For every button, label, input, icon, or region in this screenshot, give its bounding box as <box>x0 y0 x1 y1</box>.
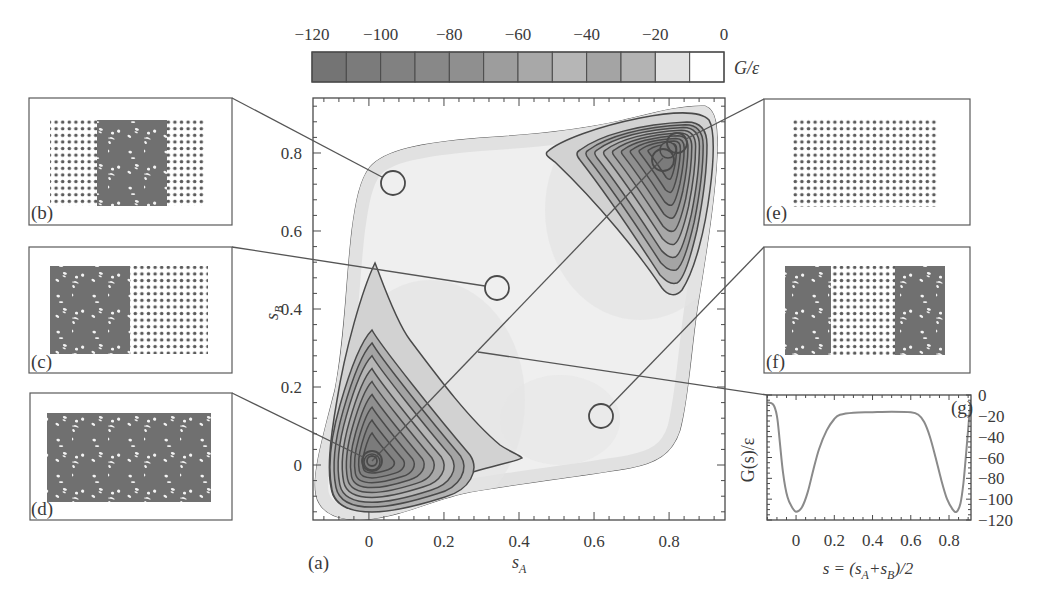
inset-b: (b) <box>29 98 232 225</box>
g-x-tick-labels: 00.20.40.60.8 <box>792 531 960 550</box>
inset-f-disordered-right <box>895 266 945 355</box>
g-x-axis-label: s = (sA+sB)/2 <box>823 559 914 582</box>
main-contour-plot: 00.20.40.60.8 00.20.40.60.8 sA sB (a) <box>262 98 735 576</box>
y-tick-label: 0 <box>294 456 303 475</box>
colorbar-cell <box>518 52 552 82</box>
colorbar-cell <box>655 52 689 82</box>
panel-label-a: (a) <box>308 552 329 574</box>
g-x-tick-label: 0.4 <box>862 531 884 550</box>
colorbar-cell <box>415 52 449 82</box>
g-x-label-part: s = (s <box>823 559 862 578</box>
y-tick-label: 0.8 <box>281 144 302 163</box>
g-y-tick-labels: 0−20−40−60−80−100−120 <box>978 386 1013 530</box>
g-y-tick-label: −100 <box>978 490 1013 509</box>
colorbar-tick-label: −80 <box>436 25 463 44</box>
figure: −120−100−80−60−40−200 G/ε <box>0 0 1046 601</box>
inset-c-label: (c) <box>31 351 52 373</box>
g-y-tick-label: −80 <box>978 469 1005 488</box>
inset-g-line-plot: 00.20.40.60.8 0−20−40−60−80−100−120 (g) … <box>738 386 1013 582</box>
colorbar-label: G/ε <box>734 58 760 78</box>
inset-b-disordered-region <box>97 120 167 206</box>
colorbar-tick-label: −60 <box>505 25 532 44</box>
colorbar-tick-label: −100 <box>363 25 398 44</box>
colorbar-tick-label: −120 <box>294 25 329 44</box>
colorbar-cells <box>312 52 724 82</box>
colorbar-cell <box>381 52 415 82</box>
x-tick-label: 0.8 <box>658 532 679 551</box>
inset-c: (c) <box>29 247 232 373</box>
colorbar-cell <box>449 52 483 82</box>
inset-f: (f) <box>764 247 970 373</box>
x-tick-label: 0.6 <box>583 532 604 551</box>
free-energy-surface <box>315 100 735 520</box>
connector-b <box>232 98 382 177</box>
colorbar-tick-label: −40 <box>573 25 600 44</box>
g-plot-background <box>767 395 971 520</box>
inset-d-label: (d) <box>31 498 53 520</box>
g-y-tick-label: −120 <box>978 511 1013 530</box>
x-tick-label: 0 <box>365 532 374 551</box>
figure-canvas: −120−100−80−60−40−200 G/ε <box>0 0 1046 601</box>
main-x-axis-label: sA <box>512 552 527 576</box>
colorbar: −120−100−80−60−40−200 G/ε <box>294 25 760 82</box>
colorbar-cell <box>484 52 518 82</box>
g-y-tick-label: −40 <box>978 428 1005 447</box>
inset-b-label: (b) <box>31 202 53 224</box>
colorbar-cell <box>690 52 724 82</box>
g-x-tick-label: 0.8 <box>938 531 959 550</box>
x-tick-label: 0.2 <box>433 532 454 551</box>
inset-d: (d) <box>30 393 232 520</box>
inset-c-disordered-region <box>50 266 130 354</box>
inset-d-disordered-region <box>47 413 211 502</box>
inset-f-label: (f) <box>766 351 785 373</box>
g-x-label-part: )/2 <box>893 559 913 578</box>
g-y-axis-label: G(s)/ε <box>738 437 759 482</box>
colorbar-cell <box>587 52 621 82</box>
inset-f-disordered-left <box>785 266 831 355</box>
inset-e-crystal-region <box>793 118 938 207</box>
x-tick-label: 0.4 <box>508 532 530 551</box>
g-x-tick-label: 0.2 <box>824 531 845 550</box>
colorbar-cell <box>552 52 586 82</box>
colorbar-cell <box>346 52 380 82</box>
colorbar-tick-label: −20 <box>642 25 669 44</box>
g-y-tick-label: 0 <box>978 386 987 405</box>
g-x-tick-label: 0 <box>792 531 801 550</box>
inset-f-crystal-middle <box>831 266 895 355</box>
main-x-tick-labels: 00.20.40.60.8 <box>365 532 680 551</box>
colorbar-tick-labels: −120−100−80−60−40−200 <box>294 25 728 44</box>
g-x-tick-label: 0.6 <box>900 531 921 550</box>
inset-c-crystal-region <box>130 266 208 354</box>
g-y-tick-label: −20 <box>978 407 1005 426</box>
inset-e-label: (e) <box>766 202 787 224</box>
g-x-label-part: +s <box>869 559 887 578</box>
colorbar-cell <box>312 52 346 82</box>
colorbar-tick-label: 0 <box>720 25 729 44</box>
panel-label-g: (g) <box>951 397 973 419</box>
y-tick-label: 0.6 <box>281 222 302 241</box>
inset-e: (e) <box>764 99 970 225</box>
colorbar-cell <box>621 52 655 82</box>
y-tick-label: 0.2 <box>281 378 302 397</box>
g-y-tick-label: −60 <box>978 449 1005 468</box>
